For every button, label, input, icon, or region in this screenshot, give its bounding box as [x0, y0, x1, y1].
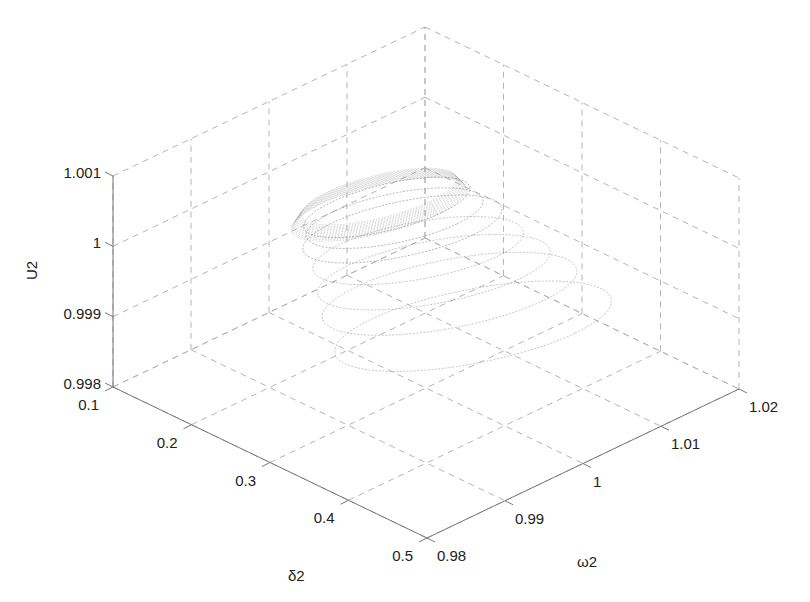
y-tick-label: 0.99 [515, 510, 544, 527]
axes-lines [105, 172, 747, 542]
z-axis-label: U2 [23, 261, 40, 280]
trajectory-curve [291, 168, 611, 371]
z-tick-label: 0.999 [63, 305, 101, 322]
y-tick-label: 1 [593, 473, 601, 490]
x-tick-label: 0.1 [78, 396, 99, 413]
z-tick-label: 0.998 [63, 375, 101, 392]
x-tick-label: 0.2 [157, 434, 178, 451]
z-tick-label: 1.001 [63, 164, 101, 181]
x-tick-label: 0.3 [235, 472, 256, 489]
z-tick-label: 1 [93, 234, 101, 251]
y-tick-label: 1.02 [749, 398, 778, 415]
x-tick-label: 0.4 [314, 509, 335, 526]
x-tick-label: 0.5 [392, 547, 413, 564]
grid-lines [113, 27, 739, 538]
y-axis-label: ω2 [577, 553, 597, 570]
y-tick-label: 0.98 [437, 547, 466, 564]
x-axis-label: δ2 [288, 567, 305, 584]
plot-3d [0, 0, 810, 602]
y-tick-label: 1.01 [671, 435, 700, 452]
